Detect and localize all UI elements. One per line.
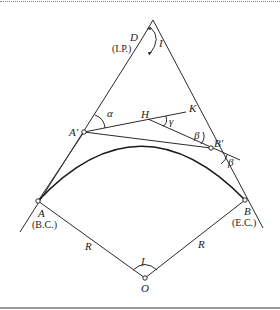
label-gamma: γ (169, 115, 174, 127)
label-ip: (I.P.) (112, 43, 131, 55)
label-o: O (141, 282, 149, 294)
label-r-left: R (84, 240, 92, 252)
label-angle-i-center: I (140, 255, 146, 267)
label-d: D (129, 31, 138, 43)
label-a: A (37, 207, 45, 219)
label-beta-lower: β (227, 156, 234, 168)
angle-alpha-arc (95, 115, 105, 128)
label-ec: (E.C.) (232, 217, 256, 229)
label-a-prime: A′ (68, 126, 79, 138)
label-bc: (B.C.) (32, 219, 57, 231)
point-b (243, 198, 247, 202)
point-b-prime (209, 146, 213, 150)
label-h: H (140, 108, 150, 120)
point-o (143, 276, 147, 280)
angle-beta-lower-arc (221, 155, 227, 164)
radius-right (145, 200, 245, 278)
point-a-prime (82, 130, 86, 134)
angle-beta-upper-arc (201, 132, 204, 144)
bottom-rule (0, 307, 280, 309)
angle-i-center-arc (133, 265, 157, 271)
line-a-prime-b-prime (84, 132, 211, 148)
point-a (36, 199, 40, 203)
label-alpha: α (107, 107, 113, 119)
left-tangent-extension (140, 20, 153, 42)
angle-gamma-arc (163, 116, 167, 126)
diagram-frame: D (I.P.) I α A′ H γ K β B′ β A (B.C.) B … (0, 0, 280, 310)
label-r-right: R (197, 238, 205, 250)
angle-i-top-arc (149, 27, 156, 55)
label-beta-upper: β (193, 129, 200, 141)
curve-diagram: D (I.P.) I α A′ H γ K β B′ β A (B.C.) B … (0, 0, 280, 310)
label-b-prime: B′ (214, 137, 224, 149)
label-k: K (188, 102, 197, 114)
label-b: B (244, 205, 251, 217)
